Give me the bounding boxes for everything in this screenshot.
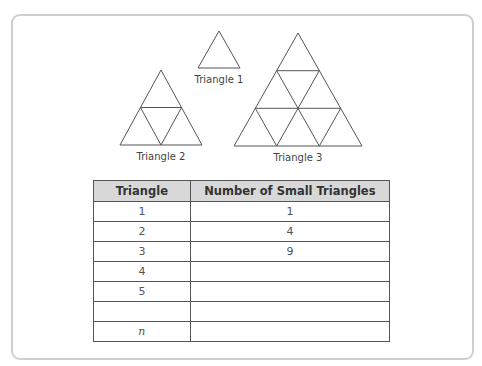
table-row: 5 bbox=[94, 282, 390, 302]
triangle-1-figure bbox=[198, 31, 240, 68]
cell-count bbox=[190, 282, 389, 302]
table-row: 1 1 bbox=[94, 202, 390, 222]
header-triangle: Triangle bbox=[94, 181, 191, 202]
cell-triangle-n: n bbox=[94, 322, 191, 342]
table-row: 4 bbox=[94, 262, 390, 282]
table-row: n bbox=[94, 322, 390, 342]
cell-count bbox=[190, 322, 389, 342]
cell-triangle: 4 bbox=[94, 262, 191, 282]
cell-count bbox=[190, 302, 389, 322]
triangle-3-label: Triangle 3 bbox=[274, 152, 323, 163]
triangle-2-figure bbox=[120, 70, 202, 145]
triangle-3-figure bbox=[234, 33, 362, 146]
table-header-row: Triangle Number of Small Triangles bbox=[94, 181, 390, 202]
triangle-count-table: Triangle Number of Small Triangles 1 1 2… bbox=[93, 180, 390, 342]
cell-count: 9 bbox=[190, 242, 389, 262]
table-row: 3 9 bbox=[94, 242, 390, 262]
triangle-2-label: Triangle 2 bbox=[137, 151, 186, 162]
cell-triangle: 1 bbox=[94, 202, 191, 222]
header-number-of-small-triangles: Number of Small Triangles bbox=[190, 181, 389, 202]
triangle-1-label: Triangle 1 bbox=[195, 74, 244, 85]
cell-triangle: 5 bbox=[94, 282, 191, 302]
cell-triangle: 3 bbox=[94, 242, 191, 262]
cell-triangle: 2 bbox=[94, 222, 191, 242]
table-row bbox=[94, 302, 390, 322]
table-row: 2 4 bbox=[94, 222, 390, 242]
cell-count bbox=[190, 262, 389, 282]
cell-count: 1 bbox=[190, 202, 389, 222]
cell-triangle bbox=[94, 302, 191, 322]
cell-count: 4 bbox=[190, 222, 389, 242]
